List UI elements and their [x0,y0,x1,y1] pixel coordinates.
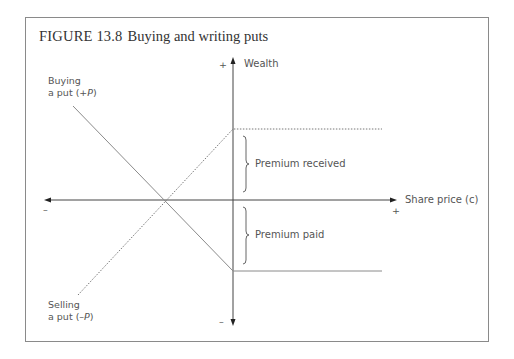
premium-paid-brace [243,207,249,264]
x-minus-sign: – [43,204,48,216]
selling-put-line [78,129,382,295]
premium-received-brace [243,136,249,192]
premium-received-label: Premium received [255,158,346,170]
y-axis-down-arrow-icon [231,319,236,326]
buying-put-label: Buying a put (+P) [48,75,97,99]
x-axis-label: Share price (c) [405,194,478,206]
y-minus-sign: – [219,316,224,328]
buying-put-line [73,106,382,271]
selling-put-label: Selling a put (–P) [48,299,94,323]
y-plus-sign: + [219,59,227,71]
y-axis-up-arrow-icon [231,57,236,64]
premium-paid-label: Premium paid [255,229,324,241]
x-axis-left-arrow-icon [44,198,51,203]
y-axis-label: Wealth [244,58,279,70]
x-axis-right-arrow-icon [390,198,397,203]
x-plus-sign: + [392,205,400,217]
